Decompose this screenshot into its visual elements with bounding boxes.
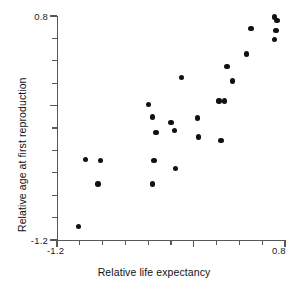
data-point	[150, 181, 155, 186]
x-axis-max-label: 0.8	[272, 245, 286, 256]
y-axis-tick	[52, 172, 57, 173]
scatter-plot-figure: 0.8 -1.2 -1.2 0.8 Relative life expectan…	[0, 0, 308, 289]
data-point	[274, 18, 279, 23]
data-point	[150, 114, 155, 119]
data-point	[244, 51, 249, 56]
y-axis-tick	[52, 60, 57, 61]
x-axis-title: Relative life expectancy	[0, 266, 308, 278]
y-axis-tick	[52, 195, 57, 196]
data-point	[230, 78, 235, 83]
x-axis-tick	[148, 240, 149, 245]
x-axis-tick	[79, 240, 80, 245]
data-point	[172, 128, 177, 133]
x-axis-tick	[193, 240, 194, 247]
x-axis-tick	[170, 240, 171, 245]
x-axis-tick	[216, 240, 217, 245]
x-axis-tick	[262, 240, 263, 245]
y-axis-tick	[52, 150, 57, 151]
y-axis-tick	[52, 38, 57, 39]
data-point	[224, 64, 229, 69]
data-point	[95, 181, 100, 186]
y-axis-line	[57, 16, 58, 241]
y-axis-tick	[52, 127, 57, 128]
data-point	[153, 130, 158, 135]
data-point	[76, 224, 81, 229]
data-point	[222, 98, 227, 103]
y-axis-tick	[50, 105, 57, 106]
data-point	[173, 166, 178, 171]
data-point	[273, 28, 278, 33]
data-point	[196, 134, 201, 139]
data-point	[168, 120, 173, 125]
y-axis-title: Relative age at first reproduction	[16, 77, 28, 232]
x-axis-tick	[125, 240, 126, 245]
data-point	[98, 158, 103, 163]
data-point	[272, 37, 277, 42]
y-axis-tick	[52, 83, 57, 84]
data-point	[151, 158, 156, 163]
data-point	[146, 102, 151, 107]
data-point	[83, 157, 88, 162]
x-axis-min-label: -1.2	[47, 245, 64, 256]
y-axis-tick	[50, 15, 57, 16]
data-point	[248, 26, 253, 31]
data-point	[195, 115, 200, 120]
data-point	[179, 75, 184, 80]
x-axis-tick	[239, 240, 240, 245]
y-axis-min-label: -1.2	[31, 235, 48, 246]
y-axis-tick	[52, 217, 57, 218]
x-axis-tick	[102, 240, 103, 245]
data-point	[272, 14, 277, 19]
y-axis-max-label: 0.8	[34, 11, 48, 22]
data-point	[218, 138, 223, 143]
data-point	[216, 98, 221, 103]
